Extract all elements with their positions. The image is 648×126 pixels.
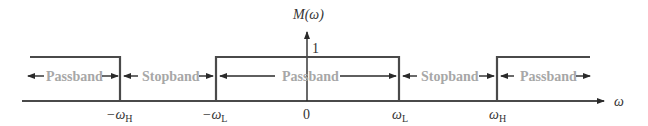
y-axis-label: M(ω) <box>292 7 324 23</box>
x-axis-label: ω <box>614 94 624 109</box>
tick-omega-l: ωL <box>392 107 408 124</box>
bandstop-filter-diagram: ω M(ω) 1 Passband Stopband Passband <box>0 0 648 126</box>
tick-zero: 0 <box>303 107 310 122</box>
band-label: Passband <box>282 69 339 84</box>
band-center-passband: Passband <box>220 69 396 84</box>
band-label: Passband <box>46 69 103 84</box>
band-label: Stopband <box>142 69 200 84</box>
band-left-passband: Passband <box>28 69 118 84</box>
tick-neg-omega-l: −ωL <box>202 107 227 124</box>
tick-labels: −ωH −ωL 0 ωL ωH <box>106 107 506 124</box>
band-right-passband: Passband <box>501 69 590 84</box>
y-axis: M(ω) 1 <box>292 7 324 101</box>
tick-neg-omega-h: −ωH <box>106 107 133 124</box>
tick-omega-h: ωH <box>489 107 506 124</box>
level-label: 1 <box>312 41 319 56</box>
band-label: Stopband <box>421 69 479 84</box>
band-label: Passband <box>520 69 577 84</box>
band-right-stopband: Stopband <box>403 69 494 84</box>
band-left-stopband: Stopband <box>124 69 213 84</box>
